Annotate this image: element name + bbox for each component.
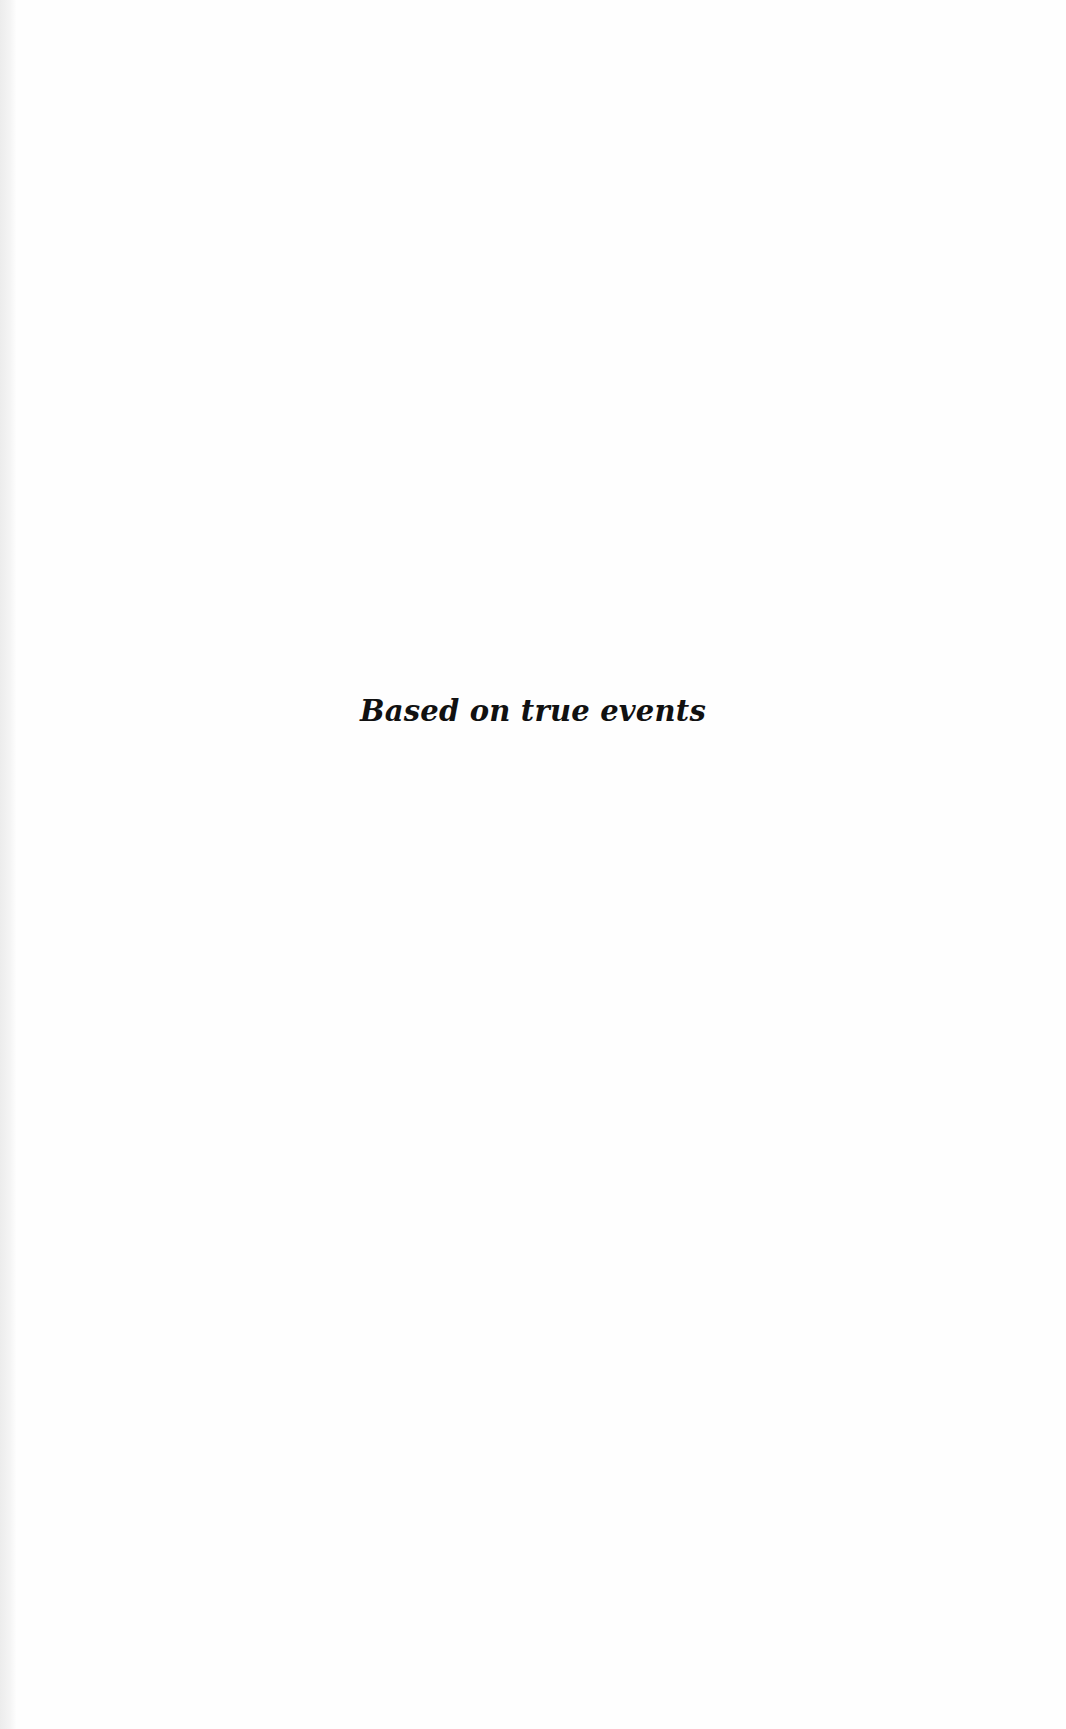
page-binding-shadow [0, 0, 16, 1729]
epigraph-text: Based on true events [0, 694, 1066, 728]
book-page: Based on true events [0, 0, 1066, 1729]
